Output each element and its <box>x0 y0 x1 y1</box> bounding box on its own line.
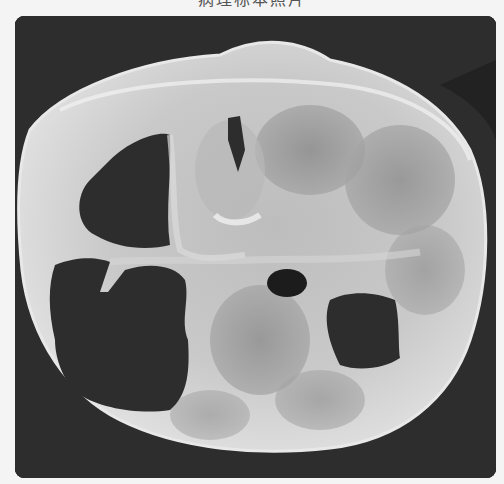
hole-lower-right <box>327 293 400 368</box>
specimen-photo <box>15 16 496 478</box>
figure-caption: 病理标本照片 <box>0 0 504 10</box>
